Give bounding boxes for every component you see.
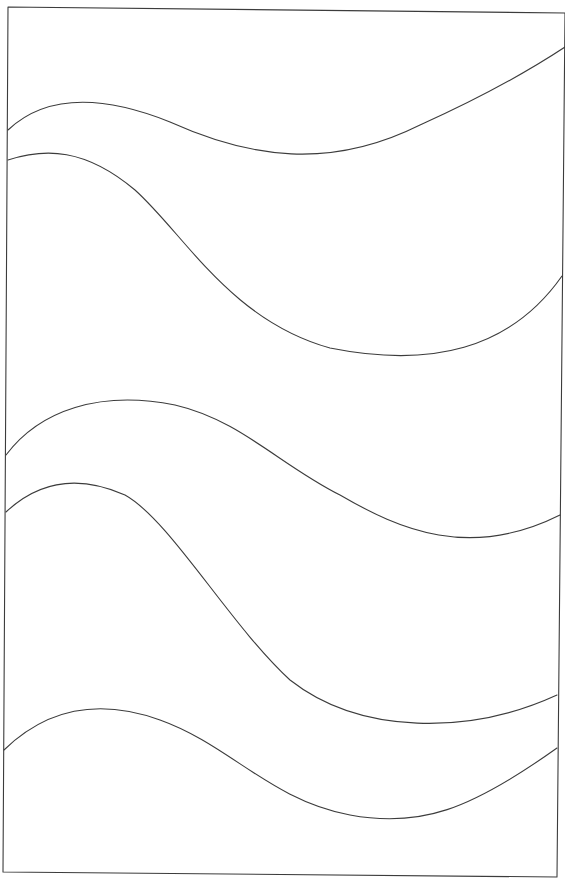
wave-curve-3: [6, 400, 560, 538]
wave-curve-2: [8, 153, 562, 355]
line-drawing: [0, 0, 565, 885]
wave-curve-4: [6, 483, 557, 723]
frame-border: [3, 7, 565, 877]
wave-curve-5: [4, 709, 557, 819]
wave-curve-1: [8, 47, 565, 154]
